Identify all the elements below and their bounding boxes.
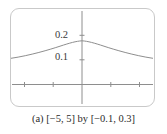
y-axis-label-0.1: 0.1 xyxy=(55,51,68,62)
figure-caption: (a) [−5, 5] by [−0.1, 0.3] xyxy=(0,113,167,124)
y-axis-label-0.2: 0.2 xyxy=(55,29,68,40)
plot-canvas xyxy=(10,8,155,107)
graphing-calculator-figure: 0.2 0.1 (a) [−5, 5] by [−0.1, 0.3] xyxy=(0,0,167,134)
